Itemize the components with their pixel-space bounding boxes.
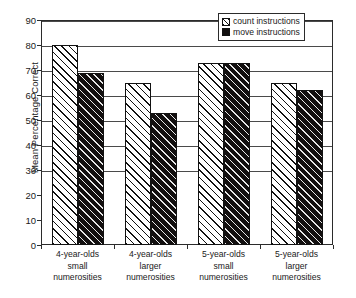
- bar-group4-count: [271, 83, 297, 246]
- x-label-group-2-line-3: numerosities: [114, 272, 187, 284]
- bar-group1-move: [78, 73, 104, 246]
- y-tick-label-10: 10: [4, 216, 36, 226]
- x-label-group-2: 4-year-olds larger numerosities: [114, 249, 187, 295]
- x-label-group-2-line-1: 4-year-olds: [114, 249, 187, 261]
- bar-group1-count: [52, 45, 78, 245]
- x-label-group-3-line-2: small: [187, 261, 260, 273]
- x-label-group-4-line-3: numerosities: [260, 272, 333, 284]
- y-tick-mark-90: [37, 20, 41, 21]
- bar-chart: Mean Percentage Correct 90 80 70 60 50 4…: [0, 0, 356, 298]
- x-label-group-4-line-2: larger: [260, 261, 333, 273]
- y-tick-mark-30: [37, 170, 41, 171]
- y-tick-mark-80: [37, 45, 41, 46]
- x-label-group-1-line-3: numerosities: [41, 272, 114, 284]
- x-axis-labels: 4-year-olds small numerosities 4-year-ol…: [41, 249, 333, 295]
- legend-item-move-instructions: move instructions: [222, 27, 300, 37]
- y-tick-label-80: 80: [4, 41, 36, 51]
- legend-item-count-instructions: count instructions: [222, 17, 300, 27]
- x-label-group-3-line-1: 5-year-olds: [187, 249, 260, 261]
- y-tick-label-70: 70: [4, 66, 36, 76]
- y-tick-label-60: 60: [4, 91, 36, 101]
- legend: count instructions move instructions: [218, 13, 305, 41]
- x-label-group-1-line-2: small: [41, 261, 114, 273]
- y-tick-label-40: 40: [4, 141, 36, 151]
- legend-label-move-instructions: move instructions: [233, 28, 300, 37]
- bar-group3-move: [224, 63, 250, 246]
- x-tick-mark-4: [333, 245, 334, 249]
- x-label-group-1-line-1: 4-year-olds: [41, 249, 114, 261]
- bar-group4-move: [297, 90, 323, 245]
- y-tick-mark-60: [37, 95, 41, 96]
- y-tick-label-20: 20: [4, 191, 36, 201]
- filled-black-swatch-icon: [222, 28, 230, 36]
- bar-group2-move: [151, 113, 177, 246]
- x-label-group-4-line-1: 5-year-olds: [260, 249, 333, 261]
- y-tick-label-30: 30: [4, 166, 36, 176]
- bar-group2-count: [125, 83, 151, 246]
- y-tick-label-50: 50: [4, 116, 36, 126]
- y-tick-mark-10: [37, 220, 41, 221]
- y-tick-mark-50: [37, 120, 41, 121]
- x-label-group-4: 5-year-olds larger numerosities: [260, 249, 333, 295]
- x-label-group-3-line-3: numerosities: [187, 272, 260, 284]
- y-tick-label-0: 0: [4, 241, 36, 251]
- legend-label-count-instructions: count instructions: [233, 17, 300, 26]
- y-tick-mark-20: [37, 195, 41, 196]
- x-label-group-3: 5-year-olds small numerosities: [187, 249, 260, 295]
- y-tick-mark-40: [37, 145, 41, 146]
- bars-layer: [41, 20, 333, 245]
- y-tick-mark-70: [37, 70, 41, 71]
- x-label-group-2-line-2: larger: [114, 261, 187, 273]
- bar-group3-count: [198, 63, 224, 246]
- hatched-white-swatch-icon: [222, 18, 230, 26]
- x-label-group-1: 4-year-olds small numerosities: [41, 249, 114, 295]
- y-tick-label-90: 90: [4, 16, 36, 26]
